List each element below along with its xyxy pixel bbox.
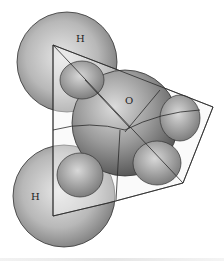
- water-molecule-diagram: H O H: [0, 0, 224, 265]
- lone-pair-lobe-lower: [133, 141, 181, 185]
- atom-label-h-bottom: H: [31, 191, 40, 202]
- atom-label-o: O: [125, 95, 133, 106]
- lone-pair-lobe-right: [160, 95, 200, 141]
- bond-lobe-bottom: [57, 153, 103, 197]
- atom-label-h-top: H: [76, 33, 85, 44]
- bottom-divider: [0, 258, 224, 261]
